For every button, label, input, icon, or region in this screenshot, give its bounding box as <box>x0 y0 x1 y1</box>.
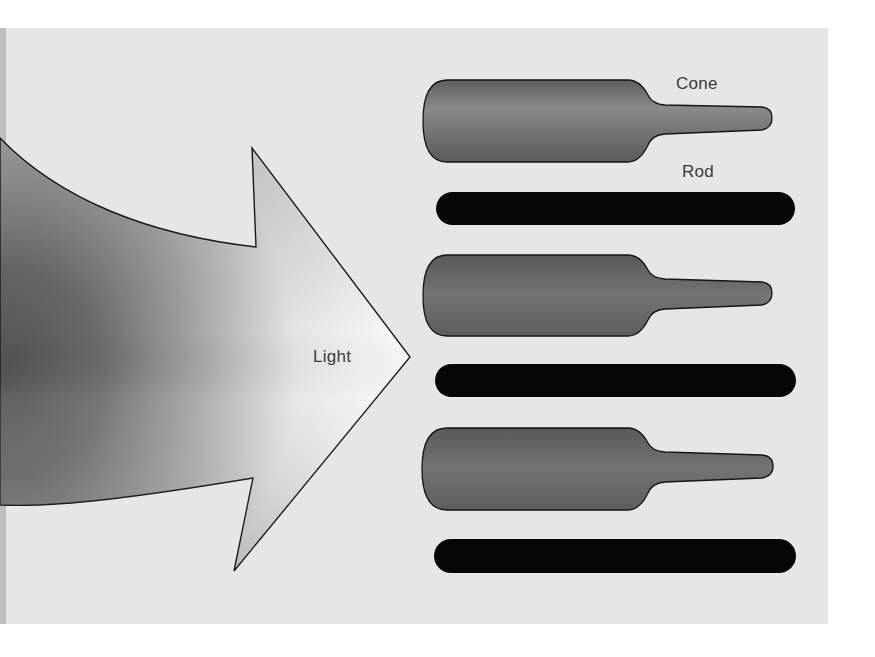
cone-3 <box>422 428 773 510</box>
rod-2 <box>435 364 796 397</box>
cone-1 <box>423 80 772 162</box>
rod-1 <box>436 192 795 225</box>
cone-shape <box>423 80 772 162</box>
light-label: Light <box>313 347 351 367</box>
rod-label: Rod <box>682 162 714 182</box>
cone-label: Cone <box>676 74 718 94</box>
cone-shape <box>423 255 772 336</box>
cone-2 <box>423 255 772 336</box>
photoreceptor-diagram <box>0 0 875 657</box>
rod-3 <box>434 539 796 573</box>
cone-shape <box>422 428 773 510</box>
